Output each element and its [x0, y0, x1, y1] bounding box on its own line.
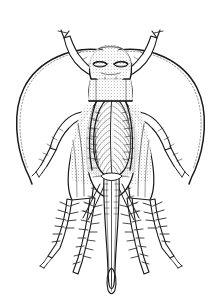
subgenital-plate	[101, 173, 122, 181]
illustration-canvas	[0, 0, 221, 306]
cricket-illustration	[0, 0, 221, 306]
